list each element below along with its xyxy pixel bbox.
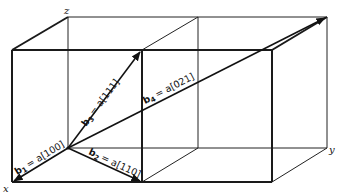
lattice-diagram: z x y b1= a[100] b2= a[110] b3= a[111] b… [0,0,341,193]
svg-text:b4= a[021]: b4= a[021] [141,71,197,108]
svg-text:b2= a[110]: b2= a[110] [86,146,142,181]
lattice-vectors [14,18,325,181]
vector-b4 [68,18,325,148]
svg-text:b1= a[100]: b1= a[100] [12,138,67,178]
label-b2: b2= a[110] [86,146,142,181]
origin-point [66,146,69,149]
axis-label-x: x [3,183,9,193]
axis-label-z: z [63,5,70,16]
label-b3: b3= a[111] [79,77,123,130]
label-b4: b4= a[021] [141,71,197,108]
svg-text:b3= a[111]: b3= a[111] [79,77,123,130]
label-b1: b1= a[100] [12,138,67,178]
axis-label-y: y [328,144,335,155]
